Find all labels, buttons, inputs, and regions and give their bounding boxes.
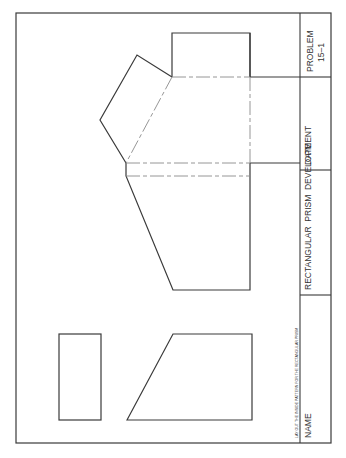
fold-line-diagonal — [126, 77, 172, 163]
drawing-sheet: PROBLEM 15–1 DATE RECTANGULAR PRISM DEVE… — [0, 0, 346, 458]
fold-lines — [126, 77, 250, 176]
top-flap — [172, 33, 250, 77]
name-label: NAME — [303, 413, 313, 438]
problem-label: PROBLEM — [305, 30, 315, 72]
top-view-rectangle — [59, 334, 101, 420]
problem-cell: PROBLEM 15–1 — [305, 30, 326, 72]
front-view-trapezoid — [127, 334, 252, 420]
instruction-text: LAY OUT THE INSIDE PATTERN FOR THE RECTA… — [295, 328, 299, 438]
drawing-title: RECTANGULAR PRISM DEVELOPMENT — [303, 126, 313, 290]
tilted-flap — [100, 55, 172, 163]
given-views — [59, 334, 252, 420]
development-pattern — [100, 33, 300, 290]
main-body — [126, 163, 250, 290]
problem-number: 15–1 — [316, 43, 326, 62]
